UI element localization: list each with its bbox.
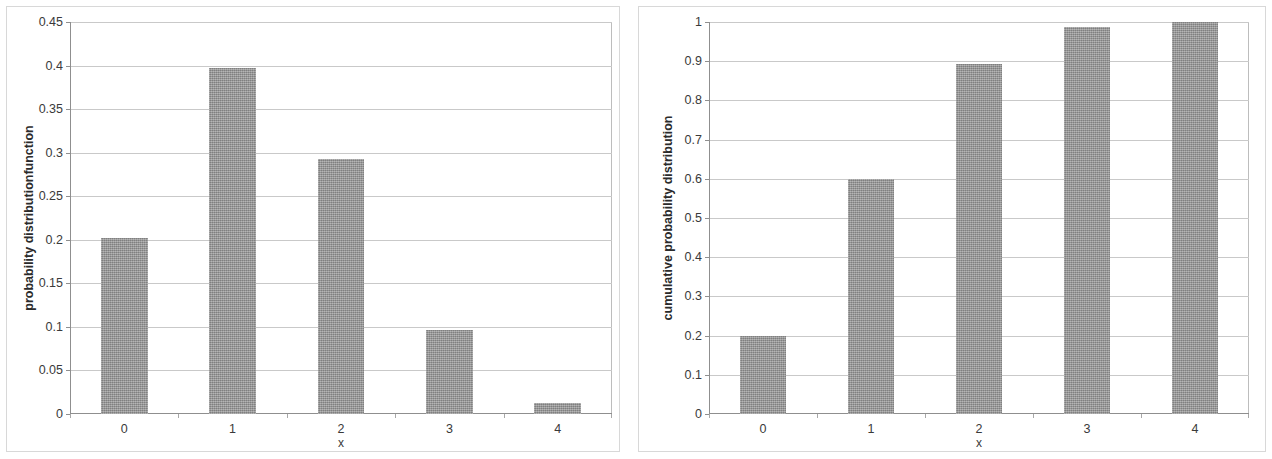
y-axis-tick-label: 0.1 — [685, 369, 702, 382]
y-axis-tick-label: 0.25 — [39, 190, 63, 203]
x-axis-tick-label: 4 — [554, 423, 561, 436]
x-axis-tick — [925, 414, 926, 418]
gridline — [70, 109, 612, 110]
x-axis-tick-label: 0 — [121, 423, 128, 436]
y-axis-tick-label: 0 — [56, 408, 63, 421]
bar[interactable] — [534, 403, 581, 414]
gridline — [70, 22, 612, 23]
x-axis-tick — [395, 414, 396, 418]
y-axis-tick-label: 0.9 — [685, 55, 702, 68]
bar[interactable] — [956, 64, 1002, 414]
y-axis-tick-label: 0.2 — [685, 329, 702, 342]
y-axis-title-pdf: probability distributionfunction — [23, 125, 36, 310]
chart-pdf[interactable]: probability distributionfunction 00.050.… — [6, 6, 620, 452]
bar[interactable] — [1064, 27, 1110, 414]
y-axis-tick-label: 0.35 — [39, 103, 63, 116]
y-axis-tick-label: 0.6 — [685, 173, 702, 186]
x-axis-tick-label: 1 — [229, 423, 236, 436]
y-axis-tick-label: 0.45 — [39, 16, 63, 29]
gridline — [70, 66, 612, 67]
y-axis-tick-label: 0.4 — [46, 59, 63, 72]
x-axis-title-cdf: x — [976, 437, 982, 449]
y-axis-tick-label: 0.05 — [39, 364, 63, 377]
y-axis-tick-label: 1 — [695, 16, 702, 29]
y-axis-tick-label: 0.3 — [685, 290, 702, 303]
y-axis-tick-label: 0.1 — [46, 321, 63, 334]
y-axis-tick-label: 0.8 — [685, 94, 702, 107]
x-axis-tick-label: 0 — [760, 423, 767, 436]
gridline — [709, 61, 1249, 62]
y-axis-tick-label: 0.5 — [685, 212, 702, 225]
y-axis-title-cdf: cumulative probability distribution — [662, 116, 675, 321]
y-axis-tick-label: 0.7 — [685, 133, 702, 146]
bar[interactable] — [848, 179, 894, 414]
bar[interactable] — [318, 159, 365, 414]
plot-area-cdf: 00.10.20.30.40.50.60.70.80.91 01234 — [709, 22, 1249, 414]
worksheet-canvas: probability distributionfunction 00.050.… — [0, 0, 1272, 459]
x-axis-tick — [817, 414, 818, 418]
bar[interactable] — [101, 238, 148, 414]
x-axis-tick — [504, 414, 505, 418]
x-axis-tick-label: 1 — [868, 423, 875, 436]
x-axis-tick — [1141, 414, 1142, 418]
x-axis-tick — [178, 414, 179, 418]
bar[interactable] — [426, 330, 473, 414]
x-axis-tick-label: 3 — [446, 423, 453, 436]
x-axis-tick — [611, 414, 612, 418]
gridline — [709, 22, 1249, 23]
value-axis-pdf — [70, 22, 71, 414]
bar[interactable] — [740, 336, 786, 414]
gridline — [70, 153, 612, 154]
y-axis-tick-label: 0.2 — [46, 234, 63, 247]
y-axis-tick-label: 0 — [695, 408, 702, 421]
y-axis-tick-label: 0.4 — [685, 251, 702, 264]
bar[interactable] — [209, 68, 256, 414]
x-axis-tick-label: 2 — [976, 423, 983, 436]
x-axis-title-pdf: x — [338, 437, 344, 449]
x-axis-tick-label: 3 — [1084, 423, 1091, 436]
value-axis-cdf — [709, 22, 710, 414]
x-axis-tick — [287, 414, 288, 418]
x-axis-tick — [70, 414, 71, 418]
x-axis-tick — [1248, 414, 1249, 418]
x-axis-tick-label: 4 — [1192, 423, 1199, 436]
chart-cdf[interactable]: cumulative probability distribution 00.1… — [638, 6, 1266, 452]
plot-area-pdf: 00.050.10.150.20.250.30.350.40.45 01234 — [70, 22, 612, 414]
bar[interactable] — [1172, 22, 1218, 414]
x-axis-tick — [709, 414, 710, 418]
x-axis-tick-label: 2 — [338, 423, 345, 436]
y-axis-tick-label: 0.15 — [39, 277, 63, 290]
y-axis-tick-label: 0.3 — [46, 146, 63, 159]
x-axis-tick — [1033, 414, 1034, 418]
